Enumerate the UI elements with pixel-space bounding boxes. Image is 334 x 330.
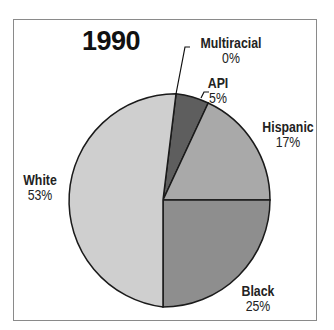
label-black-name: Black	[239, 284, 278, 299]
label-multiracial-name: Multiracial	[193, 36, 269, 51]
label-hispanic: Hispanic 17%	[259, 120, 317, 150]
label-multiracial-value: 0%	[193, 51, 269, 66]
pie-chart	[0, 0, 334, 330]
label-white-name: White	[21, 173, 60, 188]
label-hispanic-name: Hispanic	[259, 120, 317, 135]
leader-multiracial	[176, 47, 190, 94]
label-white: White 53%	[21, 173, 60, 203]
label-black-value: 25%	[239, 299, 278, 314]
label-multiracial: Multiracial 0%	[193, 36, 269, 66]
label-black: Black 25%	[239, 284, 278, 314]
label-hispanic-value: 17%	[259, 135, 317, 150]
label-white-value: 53%	[21, 188, 60, 203]
slice-white	[69, 94, 176, 307]
label-api-value: 5%	[206, 91, 231, 106]
label-api: API 5%	[206, 76, 231, 106]
label-api-name: API	[206, 76, 231, 91]
